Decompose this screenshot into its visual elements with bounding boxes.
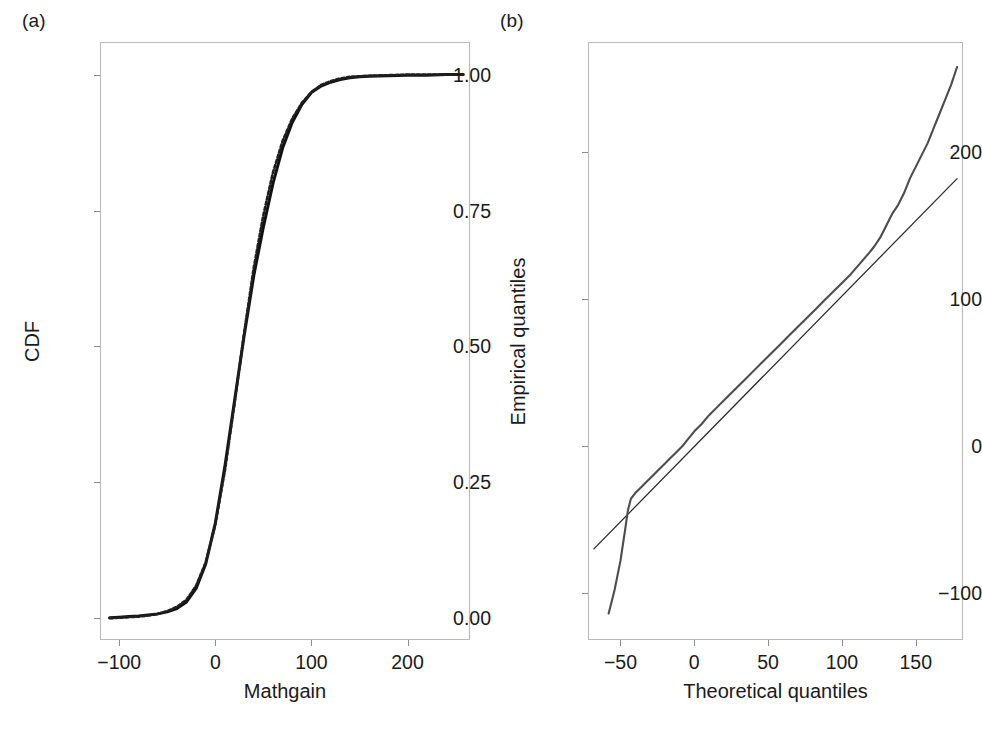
x-tick-label: 100 [826,651,859,674]
panel-a-x-axis-title: Mathgain [244,680,326,703]
figure-panels: (a) 0.000.250.500.751.00−1000100200 Math… [0,0,982,730]
y-tick-mark [582,446,588,447]
y-tick-label: 0 [897,435,982,458]
x-tick-mark [119,640,120,646]
y-tick-label: 0.25 [403,471,491,494]
panel-b-y-axis-title: Empirical quantiles [507,257,530,425]
y-tick-label: 100 [897,288,982,311]
x-tick-mark [768,640,769,646]
x-tick-label: 150 [899,651,932,674]
x-tick-label: −50 [604,651,637,674]
x-tick-label: 200 [391,651,424,674]
y-tick-mark [94,618,100,619]
x-tick-mark [694,640,695,646]
y-tick-label: 0.75 [403,199,491,222]
x-tick-mark [311,640,312,646]
x-tick-mark [620,640,621,646]
x-tick-label: 100 [295,651,328,674]
y-tick-mark [94,75,100,76]
x-tick-label: 0 [689,651,700,674]
y-tick-mark [582,299,588,300]
x-tick-label: −100 [97,651,141,674]
y-tick-label: 200 [897,141,982,164]
panel-b: (b) −1000100200−50050100150 Theoretical … [491,0,982,700]
series-1-line [594,179,957,549]
panel-a-y-axis-title: CDF [21,320,44,361]
x-tick-label: 0 [210,651,221,674]
y-tick-label: 0.50 [403,335,491,358]
panel-a: (a) 0.000.250.500.751.00−1000100200 Math… [0,0,491,700]
y-tick-mark [582,593,588,594]
y-tick-mark [94,482,100,483]
y-tick-label: −100 [897,581,982,604]
y-tick-mark [94,211,100,212]
caption-clipped-strip [0,706,982,730]
x-tick-label: 50 [757,651,779,674]
y-tick-mark [94,346,100,347]
x-tick-mark [842,640,843,646]
y-tick-mark [582,152,588,153]
panel-b-x-axis-title: Theoretical quantiles [683,680,868,703]
x-tick-mark [408,640,409,646]
x-tick-mark [916,640,917,646]
y-tick-label: 1.00 [403,63,491,86]
x-tick-mark [215,640,216,646]
y-tick-label: 0.00 [403,607,491,630]
